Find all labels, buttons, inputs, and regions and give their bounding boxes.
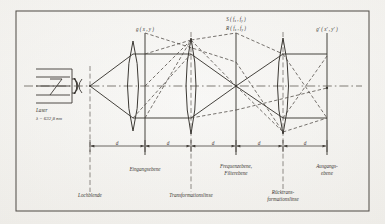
- label-output-function: g' ( x' , y' ): [316, 26, 338, 33]
- dimension-label-1: d: [116, 140, 119, 146]
- plane-lines: [90, 32, 283, 192]
- laser-source: [36, 69, 72, 103]
- label-output-plane-1: Ausgangs-: [315, 163, 338, 169]
- dimension-label-3: d: [212, 140, 215, 146]
- label-transform-lens: Transformationslinse: [169, 192, 213, 198]
- label-wavelength: λ = 632,8 nm: [35, 116, 63, 122]
- dashed-diffracted-rays: [133, 33, 327, 132]
- dimension-label-2: d: [167, 140, 170, 146]
- label-inverse-lens-2: formationslinse: [267, 196, 299, 202]
- bottom-label-group: Lochblende Eingangsebene Transformations…: [77, 163, 338, 202]
- label-spectrum-s: S ( fx , fy ): [226, 16, 246, 23]
- label-input-plane: Eingangsebene: [128, 166, 161, 172]
- label-output-plane-2: ebene: [321, 170, 334, 176]
- label-frequency-plane-1: Frequenzebene,: [219, 163, 252, 169]
- figure-root: g ( x , y ) S ( fx , fy ) R ( fx , fy ) …: [0, 0, 385, 224]
- label-input-function: g ( x , y ): [136, 26, 154, 33]
- top-label-group: g ( x , y ) S ( fx , fy ) R ( fx , fy ) …: [136, 16, 338, 33]
- laser-caption-group: Laser λ = 632,8 nm: [35, 107, 63, 122]
- dimension-labels: d d d d d: [116, 140, 307, 146]
- label-laser: Laser: [35, 107, 48, 113]
- label-inverse-lens-1: Rücktrans-: [271, 189, 295, 195]
- label-frequency-plane-2: Filterebene: [223, 170, 248, 176]
- optical-setup-diagram: g ( x , y ) S ( fx , fy ) R ( fx , fy ) …: [0, 0, 385, 224]
- dimension-label-4: d: [258, 140, 261, 146]
- label-filter-r: R ( fx , fy ): [225, 25, 246, 32]
- label-pinhole: Lochblende: [77, 192, 103, 198]
- dimension-chain: [90, 140, 327, 152]
- dimension-label-5: d: [304, 140, 307, 146]
